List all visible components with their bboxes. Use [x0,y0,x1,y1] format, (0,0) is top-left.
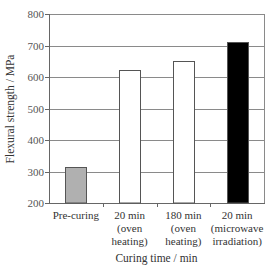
y-tick-label: 700 [20,40,44,52]
y-tick-label: 500 [20,103,44,115]
y-tick-label: 300 [20,166,44,178]
bar [66,168,87,204]
y-axis-title: Flexural strength / MPa [4,54,16,163]
x-axis-title: Curing time / min [49,252,264,264]
flexural-strength-chart: Flexural strength / MPa 2003004005006007… [0,0,270,273]
x-category-label: 20 min(microwaveirradiation) [205,209,269,248]
bar [174,62,195,204]
x-category-label-line: 20 min [205,209,269,222]
bar [228,43,249,204]
y-axis-title-wrap: Flexural strength / MPa [2,14,18,203]
x-category-label-line: irradiation) [205,235,269,248]
bar [120,71,141,204]
y-tick-label: 600 [20,71,44,83]
y-tick-label: 200 [20,197,44,209]
y-tick-label: 400 [20,134,44,146]
x-category-label-line: (microwave [205,222,269,235]
y-tick-label: 800 [20,8,44,20]
